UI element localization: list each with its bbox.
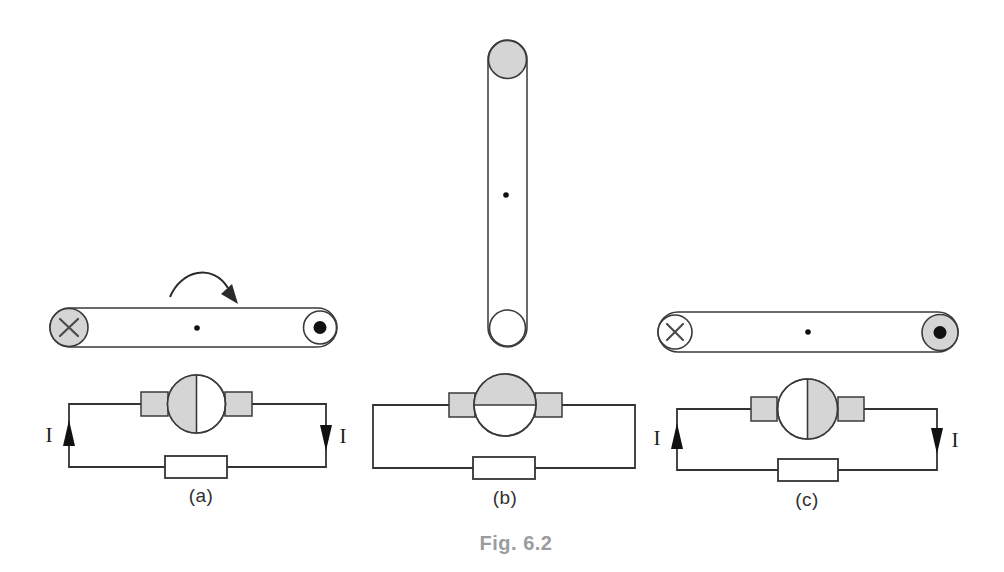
current-label-a-left: I xyxy=(46,423,53,448)
resistor xyxy=(778,459,838,481)
current-arrow-down-icon xyxy=(931,428,943,454)
current-out-of-page-icon xyxy=(304,311,337,344)
panel-a xyxy=(50,273,337,478)
coil-b xyxy=(488,40,527,347)
brush-left xyxy=(141,392,168,416)
panel-label-a: (a) xyxy=(189,485,214,507)
pivot-dot-icon xyxy=(194,325,200,331)
panel-label-b: (b) xyxy=(493,487,518,509)
commutator xyxy=(778,379,838,439)
current-arrow-up-icon xyxy=(671,423,683,449)
current-label-a-right: I xyxy=(340,424,347,449)
current-out-of-page-icon xyxy=(922,315,958,351)
resistor xyxy=(473,457,535,479)
brush-left xyxy=(449,393,475,417)
coil-a xyxy=(50,308,337,347)
pivot-dot-icon xyxy=(805,329,811,335)
circuit-c xyxy=(671,379,943,481)
circuit-a xyxy=(63,375,332,478)
brush-right xyxy=(225,392,252,416)
shaded-end-icon xyxy=(489,41,527,79)
brush-left xyxy=(751,397,777,421)
circuit-b xyxy=(373,374,635,479)
current-into-page-icon xyxy=(50,309,88,347)
figure-caption: Fig. 6.2 xyxy=(480,532,553,555)
current-label-c-left: I xyxy=(654,426,661,451)
commutator xyxy=(168,375,226,433)
brush-right xyxy=(838,397,864,421)
figure-6-2: I I I I (a) (b) (c) Fig. 6.2 xyxy=(0,0,1004,572)
panel-label-c: (c) xyxy=(795,489,819,511)
current-label-c-right: I xyxy=(952,428,959,453)
current-arrow-up-icon xyxy=(63,420,75,446)
commutator xyxy=(474,374,536,436)
brush-right xyxy=(535,393,562,417)
current-arrow-down-icon xyxy=(320,425,332,451)
panel-b xyxy=(373,40,635,479)
coil-c xyxy=(658,312,958,352)
open-end-icon xyxy=(490,310,526,346)
rotation-arrow-icon xyxy=(170,273,238,304)
current-into-page-icon xyxy=(658,315,692,349)
pivot-dot-icon xyxy=(503,192,509,198)
panel-c xyxy=(658,312,958,481)
resistor xyxy=(165,456,227,478)
